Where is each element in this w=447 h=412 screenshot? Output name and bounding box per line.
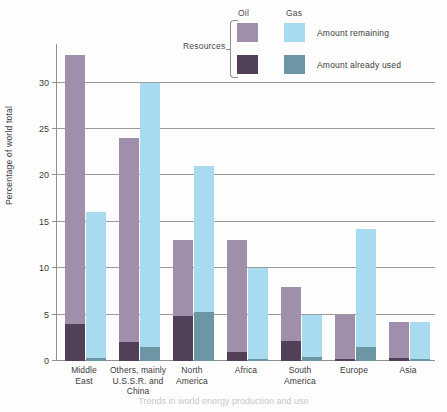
bar-gas-used-segment <box>140 347 160 361</box>
y-axis-tick <box>52 174 57 175</box>
bar-gas <box>140 83 160 362</box>
bar-oil-used-segment <box>173 316 193 361</box>
figure-caption: Trends in world energy production and us… <box>0 396 447 406</box>
bar-gas-used-segment <box>248 359 268 361</box>
y-axis-tick <box>52 314 57 315</box>
bar-group <box>227 50 268 361</box>
bar-oil <box>389 322 409 361</box>
y-axis-tick-label: 30 <box>39 78 49 88</box>
x-axis-tick-label: Asia <box>373 365 443 376</box>
y-axis-title: Percentage of world total <box>4 106 14 205</box>
bar-gas <box>356 229 376 361</box>
legend-label-amount-remaining: Amount remaining <box>317 28 389 38</box>
bar-group <box>65 50 106 361</box>
y-axis-tick <box>52 82 57 83</box>
y-axis-tick <box>52 360 57 361</box>
bar-gas-used-segment <box>410 359 430 361</box>
y-axis-tick-label: 20 <box>39 170 49 180</box>
bar-oil <box>173 240 193 361</box>
bar-oil-used-segment <box>281 341 301 361</box>
bar-oil <box>335 315 355 361</box>
bar-gas <box>302 315 322 361</box>
y-axis-tick-label: 5 <box>44 310 49 320</box>
legend-column-header-gas: Gas <box>286 8 302 18</box>
bar-gas-used-segment <box>86 358 106 361</box>
bar-group <box>389 50 430 361</box>
bar-group <box>335 50 376 361</box>
bar-oil-used-segment <box>65 324 85 361</box>
bar-oil <box>65 55 85 361</box>
bar-oil-used-segment <box>227 352 247 361</box>
bar-gas <box>410 322 430 361</box>
bar-oil <box>119 138 139 361</box>
bar-gas-used-segment <box>356 347 376 361</box>
energy-resources-bar-chart: Oil Gas Resources Amount remaining Amoun… <box>0 0 447 412</box>
y-axis-tick <box>52 267 57 268</box>
bar-gas-used-segment <box>194 312 214 361</box>
bar-group <box>119 50 160 361</box>
plot-area: 051015202530MiddleEastOthers, mainlyU.S.… <box>57 50 435 361</box>
bar-group <box>281 50 322 361</box>
bar-gas <box>194 166 214 361</box>
bar-oil-used-segment <box>389 358 409 361</box>
legend-swatch-gas-remaining <box>284 23 305 42</box>
y-axis-tick-label: 15 <box>39 217 49 227</box>
bar-oil <box>281 287 301 361</box>
y-axis-tick <box>52 221 57 222</box>
bar-group <box>173 50 214 361</box>
bar-oil-used-segment <box>335 359 355 361</box>
y-axis-tick-label: 25 <box>39 124 49 134</box>
y-axis-tick-label: 10 <box>39 263 49 273</box>
bar-oil-used-segment <box>119 342 139 361</box>
legend-column-header-oil: Oil <box>238 8 249 18</box>
bar-gas <box>86 212 106 361</box>
bar-gas-used-segment <box>302 357 322 361</box>
y-axis-tick <box>52 128 57 129</box>
bar-gas <box>248 268 268 361</box>
bar-oil <box>227 240 247 361</box>
legend-swatch-oil-remaining <box>237 23 258 42</box>
